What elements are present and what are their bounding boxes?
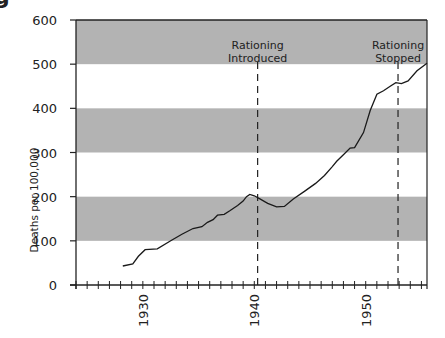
annotation-label: Rationing <box>232 39 284 52</box>
x-tick-label: 1950 <box>359 294 374 327</box>
y-tick-label: 500 <box>32 57 57 72</box>
x-tick-label: 1940 <box>247 294 262 327</box>
y-tick-label: 600 <box>32 13 57 28</box>
x-tick-label: 1930 <box>136 294 151 327</box>
x-axis: 193019401950 <box>70 281 427 327</box>
annotation-label: Introduced <box>228 52 287 65</box>
shaded-band <box>76 197 427 241</box>
y-tick-label: 0 <box>49 278 57 293</box>
y-axis-label: Deaths per 100,000 <box>28 148 40 253</box>
annotation-label: Stopped <box>375 52 421 65</box>
shaded-band <box>76 108 427 152</box>
annotation-label: Rationing <box>372 39 424 52</box>
annotation-lines: RationingIntroducedRationingStopped <box>228 39 424 285</box>
y-tick-label: 400 <box>32 101 57 116</box>
line-chart: RationingIntroducedRationingStopped 0100… <box>0 0 445 338</box>
